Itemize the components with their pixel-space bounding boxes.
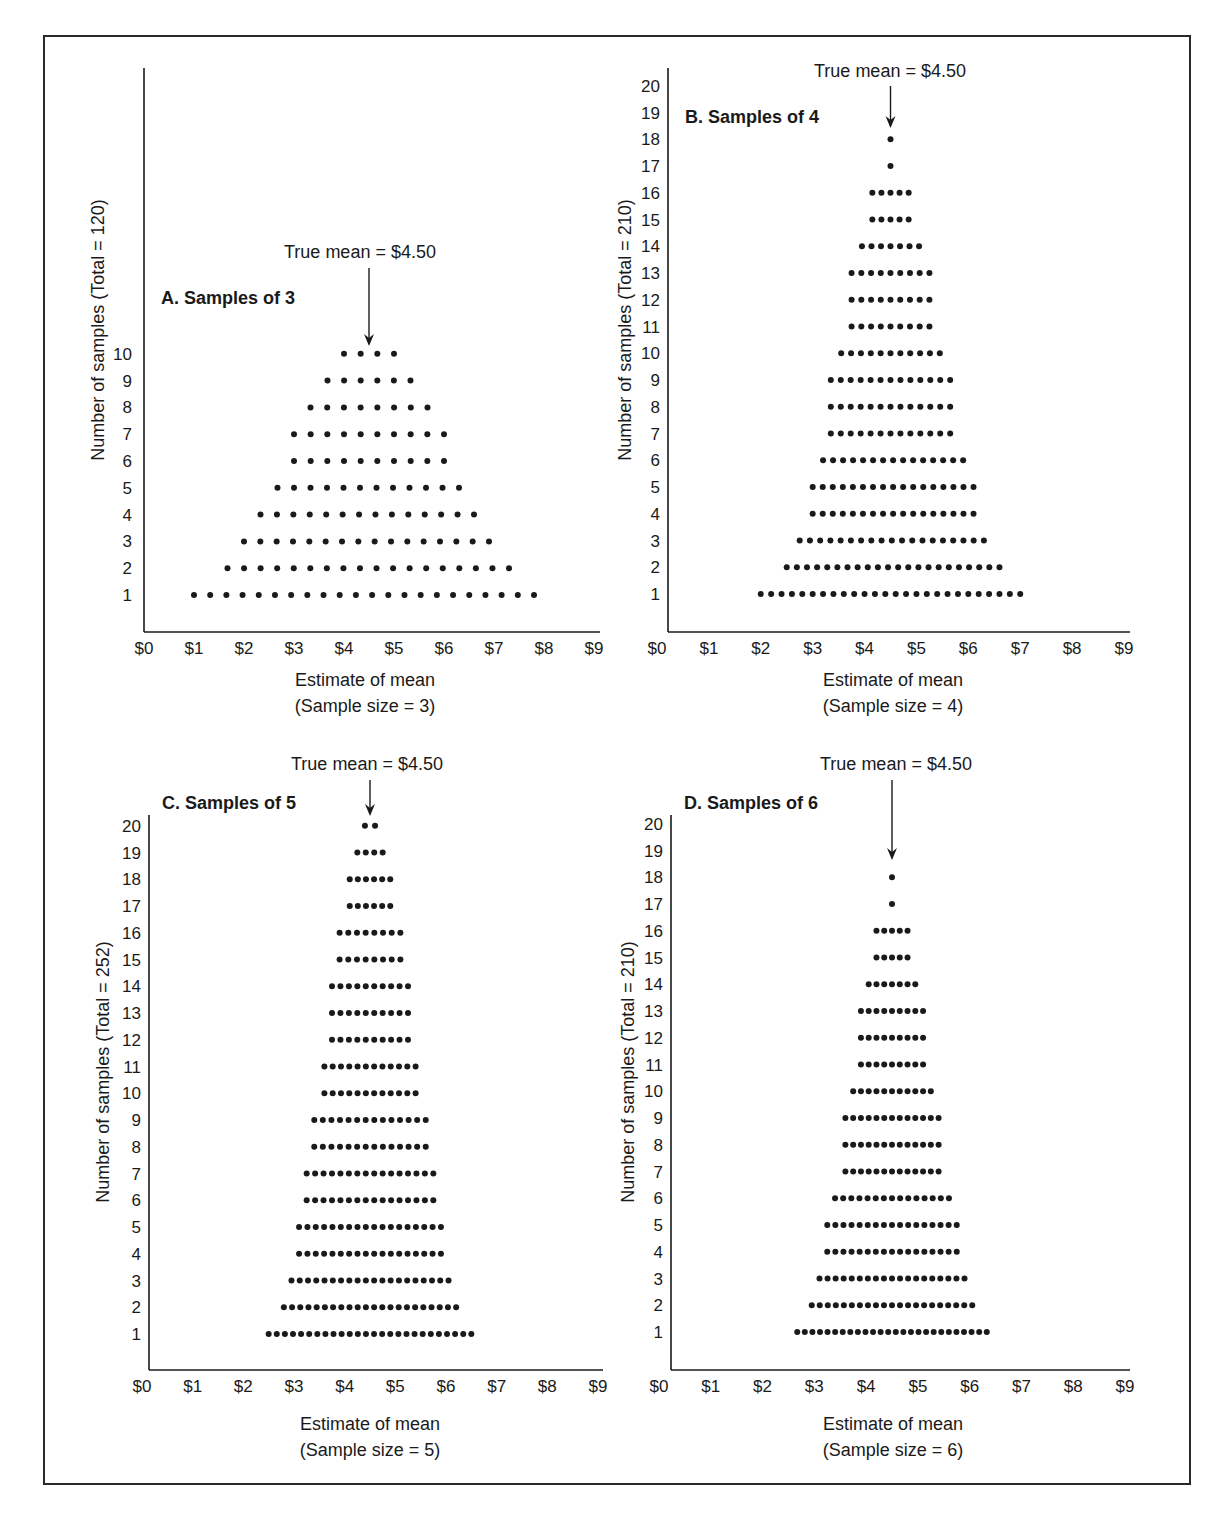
sample-dot [889, 1169, 895, 1175]
sample-dot [405, 1197, 411, 1203]
y-tick-label: 10 [122, 1084, 141, 1103]
sample-dot [960, 511, 966, 517]
sample-dot [817, 1276, 823, 1282]
x-tick-label: $4 [335, 639, 354, 658]
sample-dot [408, 458, 414, 464]
sample-dot [897, 217, 903, 223]
sample-dot [257, 538, 263, 544]
sample-dot [413, 1171, 419, 1177]
sample-dot [441, 458, 447, 464]
sample-dot [453, 1304, 459, 1310]
sample-dot [893, 591, 899, 597]
sample-dot [337, 1171, 343, 1177]
y-tick-label: 3 [654, 1270, 663, 1289]
sample-dot [848, 350, 854, 356]
sample-dot [324, 431, 330, 437]
x-tick-label: $4 [857, 1377, 876, 1396]
sample-dot [888, 270, 894, 276]
sample-dot [905, 1088, 911, 1094]
x-tick-label: $6 [960, 1377, 979, 1396]
y-tick-label: 4 [123, 506, 132, 525]
sample-dot [346, 1224, 352, 1230]
y-tick-label: 6 [654, 1189, 663, 1208]
y-tick-label: 19 [122, 844, 141, 863]
sample-dot [937, 350, 943, 356]
sample-dot [897, 377, 903, 383]
sample-dot [453, 538, 459, 544]
sample-dot [321, 1224, 327, 1230]
sample-dot [858, 538, 864, 544]
sample-dot [420, 1304, 426, 1310]
x-tick-label: $5 [385, 639, 404, 658]
sample-dot [338, 1304, 344, 1310]
sample-dot [810, 511, 816, 517]
sample-dot [841, 1276, 847, 1282]
sample-dot [438, 1224, 444, 1230]
sample-dot [850, 1115, 856, 1121]
sample-dot [878, 190, 884, 196]
sample-dot [996, 564, 1002, 570]
sample-dot [915, 564, 921, 570]
sample-dot [346, 1278, 352, 1284]
sample-dot [380, 1251, 386, 1257]
x-tick-label: $9 [1116, 1377, 1135, 1396]
sample-dot [888, 377, 894, 383]
sample-dot [395, 1331, 401, 1337]
y-tick-label: 2 [654, 1296, 663, 1315]
sample-dot [371, 1278, 377, 1284]
sample-dot [897, 1088, 903, 1094]
y-tick-label: 4 [654, 1243, 663, 1262]
sample-dot [936, 1142, 942, 1148]
sample-dot [207, 592, 213, 598]
sample-dot [917, 431, 923, 437]
sample-dot [850, 1169, 856, 1175]
sample-dot [928, 1142, 934, 1148]
sample-dot [833, 1276, 839, 1282]
y-tick-label: 12 [644, 1029, 663, 1048]
sample-dot [905, 1008, 911, 1014]
sample-dot [881, 1088, 887, 1094]
sample-dot [390, 485, 396, 491]
sample-dot [920, 1088, 926, 1094]
sample-dot [878, 377, 884, 383]
y-tick-label: 5 [123, 479, 132, 498]
sample-dot [430, 1197, 436, 1203]
sample-dot [920, 1062, 926, 1068]
sample-dot [866, 1169, 872, 1175]
y-tick-label: 18 [641, 130, 660, 149]
sample-dot [338, 1090, 344, 1096]
sample-dot [889, 1035, 895, 1041]
sample-dot [371, 1304, 377, 1310]
sample-dot [363, 983, 369, 989]
sample-dot [407, 485, 413, 491]
sample-dot [936, 1169, 942, 1175]
sample-dot [363, 930, 369, 936]
y-tick-label: 11 [645, 1056, 663, 1075]
x-tick-label: $8 [1063, 639, 1082, 658]
y-tick-label: 8 [132, 1138, 141, 1157]
sample-dot [938, 1222, 944, 1228]
y-tick-label: 16 [641, 184, 660, 203]
sample-dot [976, 1329, 982, 1335]
sample-dot [950, 457, 956, 463]
sample-dot [397, 1037, 403, 1043]
x-axis-label: Estimate of mean [300, 1414, 440, 1434]
sample-dot [489, 565, 495, 571]
sample-dot [421, 538, 427, 544]
x-tick-label: $0 [648, 639, 667, 658]
sample-dot [223, 592, 229, 598]
sample-dot [314, 1331, 320, 1337]
y-tick-label: 2 [132, 1298, 141, 1317]
sample-dot [888, 324, 894, 330]
sample-dot [387, 876, 393, 882]
y-tick-label: 16 [644, 922, 663, 941]
sample-dot [353, 592, 359, 598]
sample-dot [347, 1331, 353, 1337]
sample-dot [922, 1195, 928, 1201]
sample-dot [322, 1278, 328, 1284]
sample-dot [779, 591, 785, 597]
sample-dot [337, 1197, 343, 1203]
sample-dot [345, 957, 351, 963]
sample-dot [888, 163, 894, 169]
y-tick-label: 3 [651, 532, 660, 551]
